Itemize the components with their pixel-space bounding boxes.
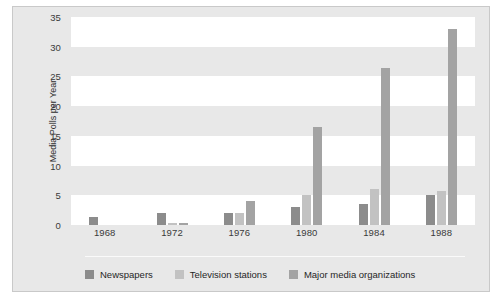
bar-group xyxy=(224,17,255,225)
bar xyxy=(437,191,446,225)
x-axis-tick: 1984 xyxy=(363,227,385,238)
bar xyxy=(246,201,255,225)
chart-figure: Media Polls per Year 05101520253035 1968… xyxy=(12,6,490,292)
bar xyxy=(224,213,233,225)
x-axis-tick: 1976 xyxy=(229,227,251,238)
y-axis-tick: 20 xyxy=(50,101,61,112)
bars-layer xyxy=(71,17,475,225)
y-axis-tick: 10 xyxy=(50,160,61,171)
bar xyxy=(370,189,379,225)
bar-group xyxy=(157,17,188,225)
x-axis-tick: 1980 xyxy=(296,227,318,238)
legend-swatch-icon xyxy=(85,270,94,279)
bar xyxy=(313,127,322,225)
bar xyxy=(291,207,300,225)
legend-label: Newspapers xyxy=(100,269,153,280)
bar-group xyxy=(291,17,322,225)
bar-group xyxy=(89,17,120,225)
bar xyxy=(179,223,188,225)
y-axis-tick-labels: 05101520253035 xyxy=(13,17,67,225)
x-axis-tick-labels: 196819721976198019841988 xyxy=(71,227,475,243)
plot-area xyxy=(71,17,475,225)
bar xyxy=(89,217,98,225)
legend-swatch-icon xyxy=(289,270,298,279)
legend-item[interactable]: Television stations xyxy=(175,269,267,280)
legend-separator xyxy=(85,256,465,257)
bar xyxy=(448,29,457,225)
chart-legend: NewspapersTelevision stationsMajor media… xyxy=(85,269,437,280)
bar xyxy=(302,195,311,225)
x-axis-tick: 1988 xyxy=(431,227,453,238)
y-axis-tick: 30 xyxy=(50,41,61,52)
bar xyxy=(157,213,166,225)
y-axis-tick: 0 xyxy=(56,220,61,231)
bar xyxy=(426,195,435,225)
y-axis-tick: 35 xyxy=(50,12,61,23)
bar xyxy=(235,213,244,225)
y-axis-tick: 15 xyxy=(50,130,61,141)
legend-label: Major media organizations xyxy=(304,269,415,280)
legend-item[interactable]: Major media organizations xyxy=(289,269,415,280)
bar-group xyxy=(359,17,390,225)
x-axis-tick: 1972 xyxy=(161,227,183,238)
legend-swatch-icon xyxy=(175,270,184,279)
legend-label: Television stations xyxy=(190,269,267,280)
x-axis-tick: 1968 xyxy=(94,227,116,238)
bar xyxy=(359,204,368,225)
y-axis-tick: 5 xyxy=(56,190,61,201)
bar xyxy=(168,223,177,225)
y-axis-tick: 25 xyxy=(50,71,61,82)
bar xyxy=(381,68,390,225)
bar-group xyxy=(426,17,457,225)
legend-item[interactable]: Newspapers xyxy=(85,269,153,280)
